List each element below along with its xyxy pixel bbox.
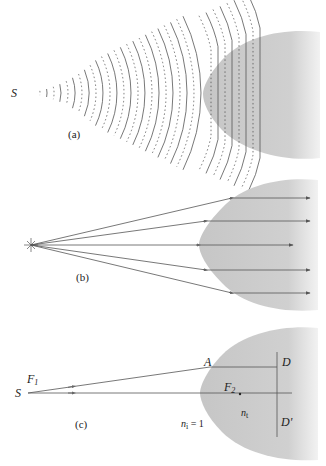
- inside-index-sub: t: [246, 411, 248, 420]
- focus-f1-label: F1: [27, 373, 38, 387]
- wavefront-solid: [96, 60, 103, 125]
- panel-a: [40, 0, 320, 195]
- caption-c: (c): [75, 419, 87, 430]
- wavefront-dashed: [53, 87, 54, 99]
- point-d-label: D: [282, 356, 291, 368]
- panel-c: [28, 327, 318, 460]
- outside-index-value: = 1: [188, 418, 204, 429]
- lens-body-c: [200, 327, 318, 460]
- panel-b: [24, 179, 318, 310]
- figure: S (a) (b) S F1 A F2 D D' (c) ni = 1 nt: [0, 0, 326, 466]
- inside-index-label: nt: [241, 408, 248, 420]
- source-label-a: S: [11, 87, 17, 99]
- source-label-c: S: [15, 387, 21, 399]
- caption-a: (a): [68, 129, 80, 140]
- wavefront-solid: [84, 70, 89, 116]
- focus-f2-sub: 2: [231, 386, 235, 395]
- wavefront-dashed: [164, 26, 180, 161]
- lens-body-a: [203, 31, 320, 159]
- wavefront-solid: [108, 54, 117, 133]
- wavefront-solid: [73, 78, 76, 108]
- focus-f2-label: F2: [224, 381, 235, 395]
- wavefront-solid: [158, 29, 173, 158]
- wavefront-dashed: [90, 65, 96, 120]
- focus-f1-sub: 1: [34, 378, 38, 387]
- wavefront-dashed: [79, 74, 82, 112]
- wavefront-dashed: [139, 38, 152, 148]
- point-d-prime-label: D': [281, 416, 292, 428]
- caption-b: (b): [76, 272, 89, 283]
- figure-canvas: [0, 0, 326, 466]
- wavefront-solid: [120, 47, 131, 138]
- wavefront-solid: [60, 84, 61, 102]
- wavefront-solid: [133, 41, 145, 145]
- wavefront-solid: [183, 16, 201, 170]
- wavefront-dashed: [66, 81, 68, 105]
- focus-f2-dot: [239, 393, 241, 395]
- outside-index-label: ni = 1: [181, 419, 204, 431]
- wavefront-dashed: [114, 50, 124, 135]
- wavefront-dashed: [127, 44, 138, 142]
- point-a-label: A: [204, 356, 211, 368]
- wavefront-dashed: [177, 19, 194, 166]
- ray-s-to-a: [28, 367, 210, 393]
